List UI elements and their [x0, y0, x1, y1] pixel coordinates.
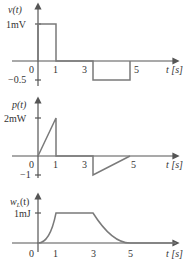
v-ytick-bottom-label: −0.5	[8, 74, 26, 85]
w-ylabel: wL(t)	[10, 196, 29, 208]
power-chart: p(t) 2mW −1 0 1 3 5 t [s]	[4, 99, 183, 180]
figure: v(t) 1mV −0.5 0 1 3 5 t [s] p(t) 2mW −1 …	[0, 0, 190, 272]
p-x1-label: 1	[53, 159, 58, 170]
p-x3-label: 3	[82, 159, 87, 170]
v-xlabel: t [s]	[166, 64, 183, 75]
v-ylabel: v(t)	[8, 4, 23, 16]
w-xlabel: t [s]	[166, 248, 183, 259]
v-x5-label: 5	[134, 64, 139, 75]
v-x1-label: 1	[53, 64, 58, 75]
w-x3-label: 3	[91, 248, 96, 259]
p-x0-label: 0	[29, 159, 34, 170]
v-x3-label: 3	[82, 64, 87, 75]
energy-chart: wL(t) 1mJ 0 1 3 5 t [s]	[10, 196, 183, 259]
w-x1-label: 1	[53, 248, 58, 259]
w-x0-label: 0	[29, 248, 34, 259]
w-ytick-top-label: 1mJ	[14, 208, 31, 219]
v-ytick-top-label: 1mV	[6, 19, 27, 30]
p-ytick-bottom-label: −1	[20, 169, 31, 180]
voltage-chart: v(t) 1mV −0.5 0 1 3 5 t [s]	[6, 4, 183, 86]
p-ylabel: p(t)	[11, 99, 27, 111]
w-signal	[38, 213, 176, 243]
p-ytick-top-label: 2mW	[4, 113, 27, 124]
w-x5-label: 5	[128, 248, 133, 259]
p-xlabel: t [s]	[166, 159, 183, 170]
v-x0-label: 0	[29, 64, 34, 75]
p-x5-label: 5	[131, 159, 136, 170]
